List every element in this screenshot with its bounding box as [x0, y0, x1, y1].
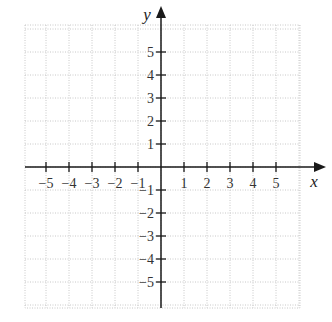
x-tick-label: −3 [85, 176, 100, 191]
x-tick-label: −4 [62, 176, 77, 191]
x-axis-label: x [309, 172, 318, 191]
x-tick-label: 5 [273, 176, 280, 191]
y-tick-label: −5 [139, 275, 154, 290]
x-tick-label: −5 [39, 176, 54, 191]
x-tick-label: 2 [204, 176, 211, 191]
y-tick-label: 3 [147, 91, 154, 106]
y-tick-label: 2 [147, 114, 154, 129]
y-axis-arrow-icon [156, 6, 166, 18]
x-tick-label: 1 [181, 176, 188, 191]
y-tick-label: −3 [139, 229, 154, 244]
x-axis-arrow-icon [314, 162, 326, 172]
x-tick-label: −2 [108, 176, 123, 191]
coordinate-plane: −5−4−3−2−112345−5−4−3−2−112345xy [0, 0, 332, 322]
y-tick-label: −4 [139, 252, 154, 267]
x-tick-label: 4 [250, 176, 257, 191]
y-axis-label: y [141, 5, 151, 24]
y-tick-label: −2 [139, 206, 154, 221]
y-tick-label: 1 [147, 137, 154, 152]
x-tick-label: 3 [227, 176, 234, 191]
y-tick-label: 5 [147, 45, 154, 60]
y-tick-label: −1 [139, 183, 154, 198]
y-tick-label: 4 [147, 68, 154, 83]
